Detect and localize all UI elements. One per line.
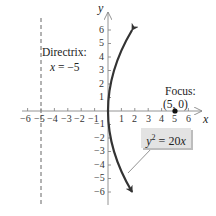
eq-x: x (180, 134, 185, 148)
parabola-graph: y x −6 −5 −4 −3 −2 −1 1 2 3 4 5 6 6 5 4 … (0, 0, 216, 216)
x-tick-label: 4 (159, 114, 164, 124)
y-tick-label: −2 (94, 133, 105, 143)
x-tick-label: −6 (20, 114, 31, 124)
focus-title: Focus: (165, 86, 196, 97)
x-tick-label: −2 (74, 114, 85, 124)
directrix-equation: x = −5 (50, 62, 80, 73)
y-tick-label: −6 (94, 187, 105, 197)
x-tick-label: −5 (34, 114, 45, 124)
x-tick-label: −4 (47, 114, 58, 124)
equation-label: y2 = 20x (141, 128, 191, 148)
y-tick-label: 6 (99, 25, 104, 35)
y-tick-label: 3 (99, 65, 104, 75)
x-tick-label: −3 (61, 114, 72, 124)
focus-coords: (5, 0) (163, 99, 188, 110)
y-tick-label: −3 (94, 146, 105, 156)
eq-rest: = 20 (156, 134, 181, 148)
x-tick-label: 1 (119, 114, 124, 124)
y-tick-label: −4 (94, 160, 105, 170)
y-tick-label: 5 (99, 38, 104, 48)
x-axis-label: x (203, 114, 208, 125)
equation-leader-line (128, 148, 152, 173)
y-tick-label: −5 (94, 173, 105, 183)
y-axis-label: y (98, 3, 103, 14)
x-tick-label: 6 (186, 114, 191, 124)
x-tick-label: 5 (172, 114, 177, 124)
y-tick-label: 4 (99, 52, 104, 62)
x-tick-label: 3 (146, 114, 151, 124)
y-tick-label: 1 (99, 92, 104, 102)
x-tick-label: 2 (132, 114, 137, 124)
directrix-eq-rest: = −5 (55, 61, 79, 73)
directrix-title: Directrix: (42, 47, 87, 58)
y-tick-label: 2 (99, 79, 104, 89)
y-tick-label: −1 (94, 119, 105, 129)
